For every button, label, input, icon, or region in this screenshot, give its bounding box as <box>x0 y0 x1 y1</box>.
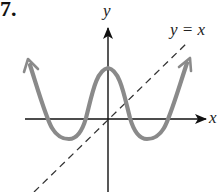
x-axis-label: x <box>209 108 217 128</box>
y-axis-label: y <box>103 1 111 21</box>
graph-figure: 7. y x y = x <box>0 0 219 192</box>
reference-line-y-equals-x <box>34 42 188 192</box>
reference-line-label: y = x <box>170 20 205 40</box>
